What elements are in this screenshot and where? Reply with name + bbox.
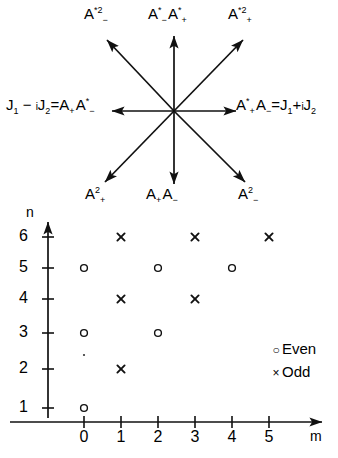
- series-odd-markers: [117, 233, 272, 372]
- arrow-label-down: A+ A−: [146, 186, 178, 201]
- arrow-up-left: [107, 40, 174, 111]
- legend-label-even: Even: [282, 340, 316, 357]
- y-tick-label: 3: [12, 323, 28, 341]
- arrow-up-right: [174, 40, 243, 111]
- y-tick-label: 5: [12, 258, 28, 276]
- x-axis-label: m: [310, 428, 322, 444]
- arrow-down-left: [105, 111, 174, 182]
- x-tick-label: 0: [76, 428, 92, 446]
- x-tick-label: 5: [261, 428, 277, 446]
- arrow-label-down-right: A2−: [238, 186, 258, 201]
- figure-root: A*2− A*− A*+ A*2+ J1 − iJ2=A+ A*− A*+ A−…: [0, 0, 338, 458]
- scatter-plot: n m 6 5 4 3 2 1 0 1 2 3 4 5 ○Even ×Odd: [0, 200, 338, 458]
- x-tick-label: 1: [113, 428, 129, 446]
- arrow-label-up-left: A*2−: [84, 6, 108, 21]
- y-tick-label: 6: [12, 227, 28, 245]
- x-tick-label: 2: [150, 428, 166, 446]
- arrow-down-right: [174, 111, 245, 182]
- x-tick-label: 4: [224, 428, 240, 446]
- arrow-label-up-right: A*2+: [228, 6, 252, 21]
- legend-item-odd: ×Odd: [270, 363, 310, 380]
- cross-marker-icon: ×: [270, 366, 282, 380]
- y-tick-label: 1: [12, 398, 28, 416]
- arrow-label-left: J1 − iJ2=A+ A*−: [6, 97, 94, 112]
- x-tick-label: 3: [187, 428, 203, 446]
- arrow-label-right: A*+ A−=J1+iJ2: [236, 97, 316, 112]
- arrow-label-up: A*− A*+: [148, 6, 187, 21]
- scan-speck: [83, 354, 85, 356]
- legend-item-even: ○Even: [270, 340, 316, 357]
- y-tick-label: 4: [12, 289, 28, 307]
- legend-label-odd: Odd: [282, 363, 310, 380]
- y-tick-label: 2: [12, 359, 28, 377]
- arrow-label-down-left: A2+: [85, 186, 105, 201]
- radial-arrow-diagram: A*2− A*− A*+ A*2+ J1 − iJ2=A+ A*− A*+ A−…: [0, 0, 338, 210]
- plot-canvas: [0, 200, 338, 458]
- series-even-markers: [81, 265, 236, 412]
- y-axis-label: n: [26, 204, 34, 220]
- circle-marker-icon: ○: [270, 343, 282, 357]
